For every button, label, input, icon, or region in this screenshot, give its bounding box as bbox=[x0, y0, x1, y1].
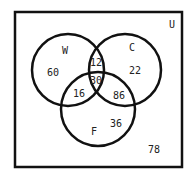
region-w-f: 16 bbox=[73, 88, 85, 99]
set-label-c: C bbox=[129, 42, 135, 53]
region-outside: 78 bbox=[148, 144, 160, 155]
region-f-only: 36 bbox=[110, 118, 122, 129]
region-c-only: 22 bbox=[129, 65, 141, 76]
region-w-c: 12 bbox=[90, 57, 102, 68]
set-label-f: F bbox=[91, 126, 97, 137]
region-w-only: 60 bbox=[47, 67, 59, 78]
venn-diagram: U W C F 60 22 36 12 16 86 30 78 bbox=[0, 0, 192, 180]
universe-label: U bbox=[169, 19, 175, 30]
set-label-w: W bbox=[62, 45, 69, 56]
region-w-c-f: 30 bbox=[90, 75, 102, 86]
region-c-f: 86 bbox=[113, 90, 125, 101]
